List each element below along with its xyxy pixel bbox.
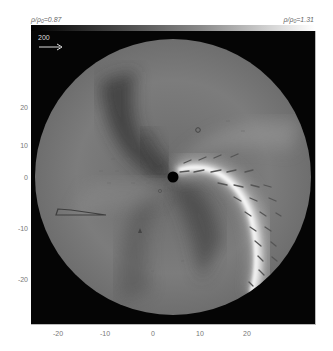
x-tick-neg20: -20 [46,330,70,337]
colorbar-min-label: ρ/ρ0=0.87 [31,16,61,24]
density-map [31,31,315,324]
y-tick-neg20: -20 [6,276,28,283]
y-tick-0: 0 [6,174,28,181]
x-tick-10: 10 [188,330,212,337]
y-tick-10: 10 [6,142,28,149]
x-tick-20: 20 [235,330,259,337]
vector-scale-label: 200 [38,34,50,41]
vector-scale-arrow-icon [38,42,68,52]
y-tick-neg10: -10 [6,225,28,232]
colorbar-max-label: ρ/ρ0=1.31 [284,16,314,24]
x-tick-neg10: -10 [93,330,117,337]
plot-area: 200 [31,31,316,325]
y-tick-20: 20 [6,104,28,111]
x-tick-0: 0 [141,330,165,337]
central-object [168,172,179,183]
